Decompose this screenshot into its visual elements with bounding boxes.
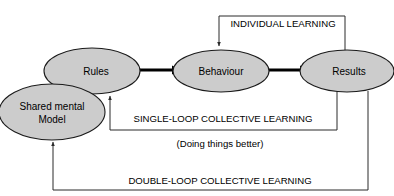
learning-loops-diagram: INDIVIDUAL LEARNING SINGLE-LOOP COLLECTI… [0, 0, 394, 196]
doing-things-better-annotation: (Doing things better) [177, 138, 264, 149]
loop-individual-learning: INDIVIDUAL LEARNING [219, 16, 345, 50]
behaviour-label: Behaviour [198, 66, 244, 77]
rules-label: Rules [83, 66, 109, 77]
results-label: Results [332, 66, 365, 77]
loop-single-loop-collective-learning: SINGLE-LOOP COLLECTIVE LEARNING [110, 91, 337, 130]
single-loop-arrow-path [110, 91, 337, 130]
node-results[interactable]: Results [300, 50, 394, 92]
shared-mental-model-ellipse[interactable] [0, 84, 105, 140]
shared-mental-model-label-line2: Model [38, 114, 65, 125]
node-shared-mental-model[interactable]: Shared mental Model [0, 84, 105, 140]
double-loop-label: DOUBLE-LOOP COLLECTIVE LEARNING [128, 175, 311, 186]
individual-learning-label: INDIVIDUAL LEARNING [230, 18, 335, 29]
single-loop-label: SINGLE-LOOP COLLECTIVE LEARNING [134, 113, 313, 124]
diagram-canvas: INDIVIDUAL LEARNING SINGLE-LOOP COLLECTI… [0, 0, 394, 196]
node-behaviour[interactable]: Behaviour [173, 50, 269, 92]
shared-mental-model-label-line1: Shared mental [19, 101, 84, 112]
